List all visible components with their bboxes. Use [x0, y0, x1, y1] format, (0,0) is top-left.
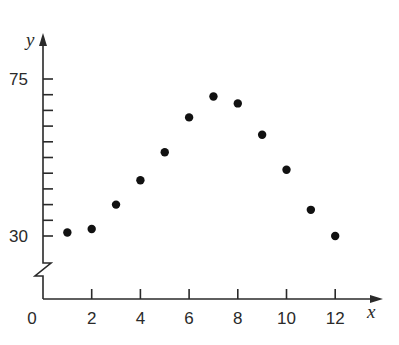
x-tick-label: 10: [277, 309, 296, 328]
y-tick-label-30: 30: [9, 227, 28, 246]
x-axis-label: x: [366, 301, 376, 322]
data-point: [88, 225, 96, 233]
scatter-plot: y 75 30 x 024681012: [0, 0, 399, 345]
x-tick-label: 2: [87, 309, 96, 328]
y-tick-label-75: 75: [9, 70, 28, 89]
x-tick-label: 6: [184, 309, 193, 328]
x-axis: x 024681012: [27, 289, 383, 328]
data-point: [331, 232, 339, 240]
y-axis: y 75 30: [9, 29, 53, 299]
y-axis-label: y: [24, 29, 35, 50]
data-point: [161, 148, 169, 156]
x-tick-label: 4: [136, 309, 145, 328]
x-tick-label: 8: [233, 309, 242, 328]
data-point: [185, 113, 193, 121]
x-tick-label: 12: [326, 309, 345, 328]
x-axis-ticks: 024681012: [27, 289, 344, 328]
y-axis-ticks: [43, 79, 53, 236]
data-point: [136, 176, 144, 184]
data-point: [63, 228, 71, 236]
data-point: [209, 92, 217, 100]
data-point: [112, 200, 120, 208]
x-tick-label: 0: [27, 309, 36, 328]
data-points: [63, 92, 339, 240]
data-point: [307, 206, 315, 214]
y-axis-arrow-icon: [39, 33, 47, 46]
data-point: [234, 99, 242, 107]
data-point: [282, 166, 290, 174]
data-point: [258, 131, 266, 139]
